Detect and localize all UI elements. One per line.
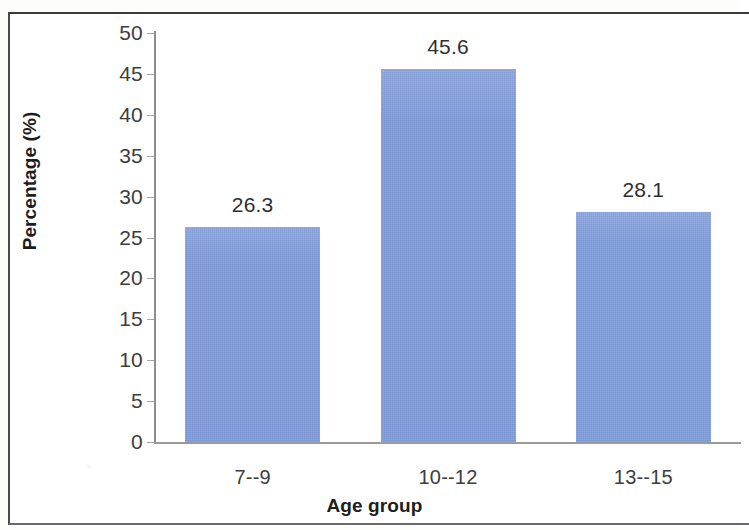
y-axis-tick-mark	[147, 319, 154, 320]
y-axis-tick-mark	[147, 401, 154, 402]
y-axis-tick-mark	[147, 442, 154, 443]
x-axis-tick-label: 7--9	[234, 466, 270, 489]
bar-value-label: 26.3	[232, 193, 274, 217]
y-axis-title: Percentage (%)	[19, 71, 41, 291]
y-axis-tick-mark	[147, 278, 154, 279]
bar	[185, 227, 320, 442]
y-axis-tick-label: 40	[119, 103, 143, 127]
y-axis-tick-mark	[147, 74, 154, 75]
y-axis-tick-label: 10	[119, 348, 143, 372]
y-axis-tick-mark	[147, 360, 154, 361]
x-axis-tick-label: 10--12	[418, 466, 477, 489]
bar-value-label: 45.6	[427, 35, 469, 59]
y-axis-tick-label: 45	[119, 62, 143, 86]
y-axis-tick-mark	[147, 115, 154, 116]
plot-area: 05101520253035404550 26.345.628.1	[155, 33, 741, 442]
y-axis-tick-label: 50	[119, 21, 143, 45]
bar	[381, 69, 516, 442]
y-axis-tick-label: 25	[119, 226, 143, 250]
x-axis-title-text: Age group	[319, 495, 423, 516]
y-axis-tick-mark	[147, 33, 154, 34]
y-axis-tick-mark	[147, 238, 154, 239]
y-axis-tick-label: 30	[119, 185, 143, 209]
x-axis-line	[154, 442, 741, 444]
y-axis-tick-label: 15	[119, 307, 143, 331]
y-axis-tick-label: 0	[131, 430, 143, 454]
bar	[576, 212, 711, 442]
bar-value-label: 28.1	[622, 178, 664, 202]
y-axis-tick-mark	[147, 156, 154, 157]
y-axis-tick-label: 5	[131, 389, 143, 413]
y-axis-tick-label: 35	[119, 144, 143, 168]
x-axis-title: Age group	[0, 495, 741, 517]
x-axis-tick-label: 13--15	[614, 466, 673, 489]
y-axis-tick-label: 20	[119, 266, 143, 290]
y-axis-tick-mark	[147, 197, 154, 198]
